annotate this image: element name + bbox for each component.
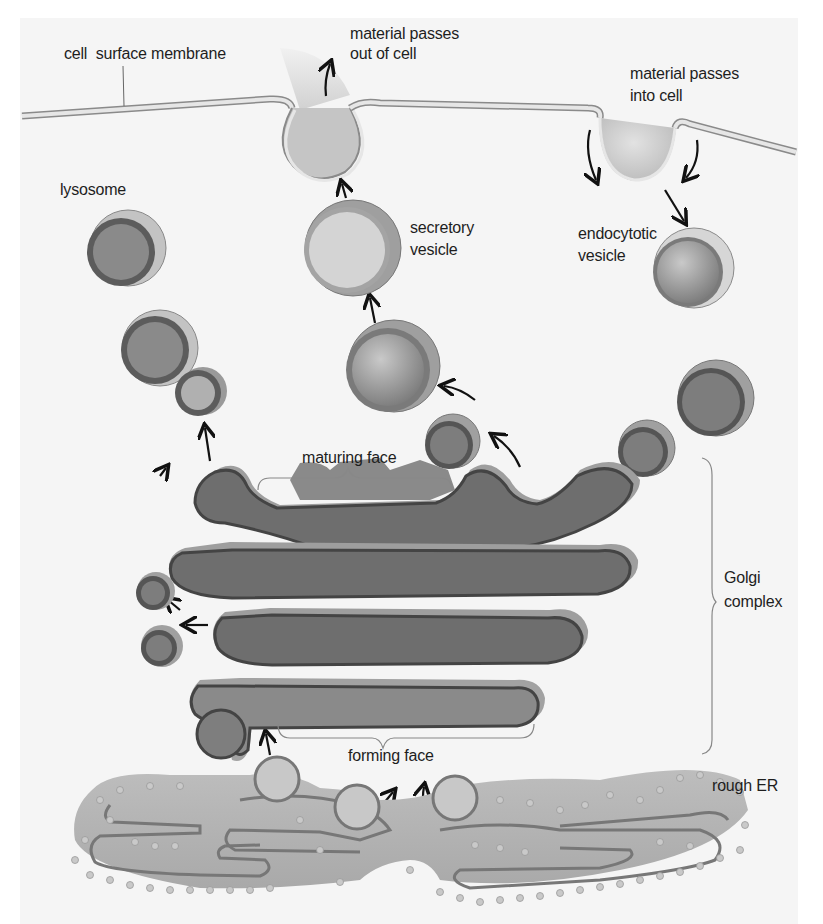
label-lysosome: lysosome xyxy=(60,180,126,200)
label-endocytotic-vesicle-line2: vesicle xyxy=(578,246,626,266)
golgi-diagram xyxy=(0,0,823,924)
maturing-vesicle xyxy=(346,320,440,412)
label-golgi-complex-line1: Golgi xyxy=(724,568,760,588)
label-material-in-line1: material passes xyxy=(630,64,739,84)
label-golgi-complex-line2: complex xyxy=(724,592,782,612)
label-secretory-vesicle-line1: secretory xyxy=(410,218,474,238)
label-material-out-line2: out of cell xyxy=(350,44,416,64)
label-forming-face: forming face xyxy=(348,746,434,766)
label-maturing-face: maturing face xyxy=(302,448,396,468)
secretory-vesicle xyxy=(304,200,401,296)
golgi-vesicles-left xyxy=(136,572,183,667)
budding-lysosome xyxy=(121,310,227,416)
label-rough-er: rough ER xyxy=(712,776,778,796)
label-material-out-line1: material passes xyxy=(350,24,459,44)
endocytotic-vesicle xyxy=(653,228,734,308)
label-endocytotic-vesicle-line1: endocytotic xyxy=(578,224,657,244)
lysosome xyxy=(87,210,166,286)
golgi-cisternae xyxy=(169,458,640,761)
golgi-complex-brace xyxy=(702,458,716,754)
label-secretory-vesicle-line2: vesicle xyxy=(410,240,458,260)
label-material-in-line2: into cell xyxy=(630,86,682,106)
rough-er xyxy=(72,757,749,906)
membrane-pointer-line xyxy=(123,66,124,106)
label-cell-surface-membrane: cell surface membrane xyxy=(64,44,226,64)
